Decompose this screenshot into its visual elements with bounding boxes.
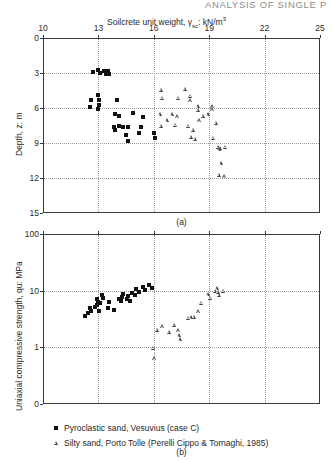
gridline-vertical — [265, 39, 266, 212]
panel-b-point-silty — [208, 296, 212, 300]
legend-label-pyroclastic: Pyroclastic sand, Vesuvius (case C) — [64, 423, 199, 433]
x-tick — [98, 35, 99, 38]
panel-a-point-silty — [160, 96, 164, 100]
panel-b-point-pyroclastic — [112, 308, 116, 312]
panel-a-point-silty — [175, 114, 179, 118]
x-tick — [154, 231, 155, 234]
gridline-horizontal — [44, 108, 319, 109]
panel-b-point-pyroclastic — [121, 292, 125, 296]
panel-a-point-silty — [159, 124, 163, 128]
panel-b-point-silty — [196, 309, 200, 313]
panel-b-point-silty — [221, 289, 225, 293]
gridline-horizontal — [44, 178, 319, 179]
gridline-vertical — [98, 235, 99, 403]
panel-b-point-silty — [176, 328, 180, 332]
panel-b-point-pyroclastic — [107, 300, 111, 304]
y-tick-label: 10 — [13, 286, 39, 296]
panel-b-point-silty — [178, 337, 182, 341]
panel-a-point-silty — [188, 98, 192, 102]
panel-b-point-silty — [155, 328, 159, 332]
y-tick — [40, 291, 43, 292]
panel-b-plot-frame — [43, 234, 320, 404]
gridline-vertical — [209, 39, 210, 212]
panel-b-point-silty — [199, 301, 203, 305]
y-tick-label: 6 — [13, 103, 39, 113]
panel-a-point-silty — [193, 137, 197, 141]
gridline-horizontal — [44, 143, 319, 144]
panel-b-point-silty — [172, 323, 176, 327]
legend-label-silty: Silty sand, Porto Tolle (Perelli Cippo &… — [64, 438, 268, 448]
figure-legend: Pyroclastic sand, Vesuvius (case C) Silt… — [48, 420, 333, 450]
x-tick — [43, 35, 44, 38]
panel-b-point-pyroclastic — [150, 286, 154, 290]
x-tick — [265, 231, 266, 234]
y-tick-label: 1 — [13, 342, 39, 352]
panel-a-point-silty — [222, 174, 226, 178]
panel-a-point-pyroclastic — [107, 72, 111, 76]
panel-a-point-pyroclastic — [91, 70, 95, 74]
panel-b-point-pyroclastic — [89, 309, 93, 313]
panel-b-point-pyroclastic — [95, 297, 99, 301]
panel-a-point-silty — [186, 124, 190, 128]
panel-b-point-pyroclastic — [119, 299, 123, 303]
open-triangle-icon — [48, 441, 64, 445]
gridline-vertical — [265, 235, 266, 403]
panel-a-point-pyroclastic — [97, 98, 101, 102]
panel-b-point-pyroclastic — [98, 301, 102, 305]
panel-b-point-pyroclastic — [106, 306, 110, 310]
panel-a-point-silty — [165, 118, 169, 122]
panel-a-point-silty — [196, 108, 200, 112]
panel-a-point-pyroclastic — [96, 107, 100, 111]
gridline-vertical — [154, 235, 155, 403]
panel-a-point-pyroclastic — [153, 136, 157, 140]
panel-a-point-silty — [188, 94, 192, 98]
panel-a-point-silty — [217, 173, 221, 177]
x-tick — [43, 231, 44, 234]
gridline-horizontal — [44, 73, 319, 74]
panel-a-point-silty — [173, 123, 177, 127]
gridline-horizontal — [44, 347, 319, 348]
panel-b-y-axis-title: Uniaxial compressive strength, qu: MPa — [14, 261, 24, 411]
panel-a-point-silty — [219, 161, 223, 165]
x-tick-label: 13 — [89, 23, 107, 33]
x-tick — [209, 231, 210, 234]
panel-a-plot-frame — [43, 38, 320, 213]
x-tick-label: 22 — [256, 23, 274, 33]
panel-a-point-silty — [191, 128, 195, 132]
panel-a-point-pyroclastic — [115, 98, 119, 102]
panel-b-point-pyroclastic — [128, 299, 132, 303]
y-tick-label: 3 — [13, 68, 39, 78]
x-tick-label: 10 — [34, 23, 52, 33]
y-tick-label: 12 — [13, 173, 39, 183]
panel-b-point-pyroclastic — [88, 306, 92, 310]
panel-a-point-pyroclastic — [113, 128, 117, 132]
x-tick — [154, 35, 155, 38]
panel-b-point-pyroclastic — [143, 288, 147, 292]
panel-a-point-silty — [197, 118, 201, 122]
panel-b-point-silty — [152, 356, 156, 360]
panel-a-point-silty — [223, 145, 227, 149]
panel-a-point-pyroclastic — [152, 131, 156, 135]
y-tick — [40, 213, 43, 214]
running-head: ANALYSIS OF SINGLE P — [0, 0, 333, 9]
panel-b-point-pyroclastic — [137, 290, 141, 294]
y-tick — [40, 143, 43, 144]
panel-a-point-silty — [210, 107, 214, 111]
panel-b-point-silty — [160, 324, 164, 328]
panel-a-caption: (a) — [162, 217, 202, 227]
panel-a-point-pyroclastic — [97, 103, 101, 107]
x-tick — [320, 35, 321, 38]
panel-a-point-silty — [170, 112, 174, 116]
panel-a-point-pyroclastic — [121, 125, 125, 129]
panel-a-point-pyroclastic — [96, 93, 100, 97]
panel-b-point-pyroclastic — [97, 309, 101, 313]
panel-a-point-silty — [159, 88, 163, 92]
panel-a-point-pyroclastic — [89, 98, 93, 102]
y-tick — [40, 178, 43, 179]
panel-a-point-pyroclastic — [141, 115, 145, 119]
y-tick — [40, 234, 43, 235]
panel-a-point-pyroclastic — [124, 133, 128, 137]
x-tick-label: 19 — [200, 23, 218, 33]
y-tick-label: 0 — [13, 33, 39, 43]
legend-item-silty: Silty sand, Porto Tolle (Perelli Cippo &… — [48, 435, 333, 450]
